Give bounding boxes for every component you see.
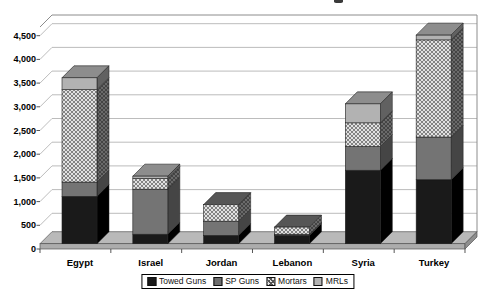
x-axis-label: Syria [352,257,376,268]
bar-side-face [451,28,463,137]
bar-segment-sp-guns [62,182,97,196]
legend-item: Towed Guns [147,277,206,286]
x-axis-label: Israel [138,257,163,268]
bar-segment-towed-guns [62,196,97,243]
y-axis-label: 1,500 [13,173,36,183]
y-axis-label: 4,500 [13,31,36,41]
bar-side-face [97,78,109,182]
y-axis-label: 0 [31,244,36,254]
bar-segment-sp-guns [416,137,451,180]
legend-label: MRLs [326,277,348,286]
bar-segment-mortars [416,40,451,137]
bar-segment-mortars [62,90,97,182]
chart-legend: Towed GunsSP GunsMortarsMRLs [141,274,354,289]
legend-item: MRLs [314,277,348,286]
chart-canvas: 05001,0001,5002,0002,5003,0003,5004,0004… [0,0,495,300]
y-axis-label: 3,000 [13,102,36,112]
bar-segment-mortars [133,179,168,190]
bar-segment-mrls [345,104,380,123]
x-axis-label: Egypt [67,257,94,268]
legend-swatch-mortars [266,277,275,286]
bar-segment-mortars [345,123,380,147]
bar-segment-sp-guns [345,147,380,171]
x-axis-label: Turkey [419,257,450,268]
bar-segment-mrls [416,35,451,40]
bar-segment-towed-guns [345,170,380,243]
legend-swatch-towed-guns [147,277,156,286]
y-axis-label: 3,500 [13,78,36,88]
legend-item: SP Guns [213,277,259,286]
x-axis-label: Lebanon [273,257,313,268]
bar-side-face [451,168,463,244]
legend-swatch-mrls [314,277,323,286]
y-axis-label: 2,500 [13,126,36,136]
legend-item: Mortars [266,277,307,286]
bar-syria [345,92,392,244]
bar-segment-towed-guns [133,234,168,243]
bar-segment-mrls [133,176,168,178]
legend-swatch-sp-guns [213,277,222,286]
bar-segment-towed-guns [416,180,451,244]
bar-segment-towed-guns [204,235,239,243]
bar-turkey [416,23,463,244]
floor-front [40,244,465,249]
bar-segment-mortars [204,205,239,222]
stacked-bar-3d-plot: 05001,0001,5002,0002,5003,0003,5004,0004… [0,0,495,300]
bar-segment-sp-guns [133,189,168,234]
y-axis-label: 1,000 [13,197,36,207]
bar-segment-towed-guns [274,235,309,243]
y-axis-label: 500 [21,220,36,230]
legend-label: Mortars [278,277,307,286]
bar-segment-sp-guns [204,221,239,235]
bar-jordan [204,193,251,244]
bar-segment-mortars [274,227,309,234]
y-axis-label: 2,000 [13,149,36,159]
back-wall [52,15,477,237]
left-wall [40,15,52,249]
bar-side-face [380,158,392,243]
bar-segment-mrls [62,78,97,90]
x-axis-label: Jordan [206,257,238,268]
bar-egypt [62,66,109,244]
y-axis-label: 4,000 [13,54,36,64]
bar-israel [133,164,180,244]
legend-label: Towed Guns [159,277,206,286]
legend-label: SP Guns [225,277,259,286]
